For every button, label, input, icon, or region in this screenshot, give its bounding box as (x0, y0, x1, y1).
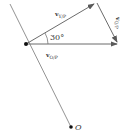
point-p (24, 42, 28, 46)
point-o (69, 125, 73, 129)
angle-label: 30° (50, 33, 64, 42)
label-v-y-p: vY/P (54, 10, 66, 19)
label-v-q-p: vQ/P (114, 16, 123, 29)
label-v-o-p: vO/P (45, 51, 58, 60)
vector-diagram: 30° vY/P vO/P vQ/P O (0, 0, 130, 133)
angle-arc (45, 33, 48, 44)
point-o-label: O (75, 123, 82, 132)
